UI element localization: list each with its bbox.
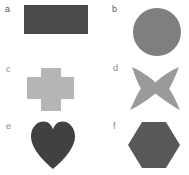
- shape-circle: [133, 8, 181, 56]
- panel-label-f: f: [113, 122, 116, 131]
- rectangle-path: [24, 5, 88, 34]
- panel-e: e: [0, 116, 94, 174]
- heart-path: [31, 122, 75, 170]
- shape-figure: a b c d e f: [0, 0, 189, 175]
- panel-d: d: [95, 58, 189, 116]
- shape-cross: [27, 68, 74, 111]
- circle-path: [133, 8, 181, 56]
- panel-c: c: [0, 58, 94, 116]
- panel-label-a: a: [5, 5, 10, 14]
- shape-rectangle: [24, 5, 88, 34]
- panel-label-c: c: [6, 65, 11, 74]
- panel-f: f: [95, 116, 189, 174]
- shape-heart: [29, 121, 77, 169]
- star-path: [130, 67, 180, 110]
- shape-hexagon: [128, 122, 180, 168]
- shape-four-pointed-star: [127, 67, 184, 110]
- panel-label-e: e: [6, 122, 11, 131]
- panel-b: b: [95, 0, 189, 58]
- panel-label-d: d: [113, 64, 118, 73]
- panel-a: a: [0, 0, 94, 58]
- cross-path: [27, 68, 74, 111]
- panel-label-b: b: [112, 5, 117, 14]
- hexagon-path: [128, 122, 180, 168]
